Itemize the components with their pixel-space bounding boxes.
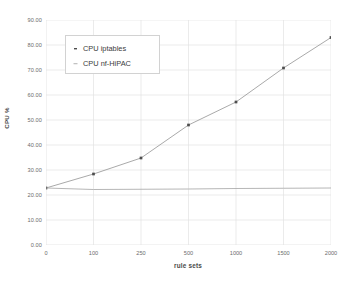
- x-axis-tick-label: 1000: [230, 250, 242, 256]
- legend-marker-iptables-icon: [72, 45, 79, 52]
- legend-label-iptables: CPU iptables: [83, 44, 126, 53]
- x-axis-tick-label: 250: [136, 250, 145, 256]
- legend-item-iptables: CPU iptables: [72, 41, 159, 56]
- legend-marker-nfhipac-icon: [72, 60, 79, 67]
- x-axis-tick-labels: 0100250500100015002000: [0, 0, 341, 281]
- cpu-usage-line-chart: 0.0010.0020.0030.0040.0050.0060.0070.008…: [0, 0, 341, 281]
- x-axis-title: rule sets: [174, 262, 202, 269]
- x-axis-tick-label: 500: [184, 250, 193, 256]
- x-axis-tick-label: 0: [44, 250, 47, 256]
- x-axis-tick-label: 100: [89, 250, 98, 256]
- x-axis-tick-label: 1500: [277, 250, 289, 256]
- legend-label-nfhipac: CPU nf-HiPAC: [83, 59, 131, 68]
- x-axis-tick-label: 2000: [325, 250, 337, 256]
- legend-item-nfhipac: CPU nf-HiPAC: [72, 56, 159, 71]
- chart-legend: CPU iptables CPU nf-HiPAC: [65, 35, 160, 74]
